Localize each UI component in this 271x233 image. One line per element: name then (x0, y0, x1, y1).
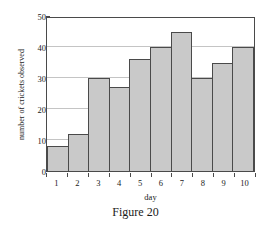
bar (88, 78, 110, 171)
plot-area (46, 17, 255, 172)
x-axis-label: day (46, 192, 255, 202)
bar (191, 78, 213, 171)
x-axis-tick-label: 8 (192, 178, 213, 188)
x-axis-tick-label: 6 (151, 178, 172, 188)
y-axis-tick-label: 0 (30, 168, 46, 177)
x-axis-tick-label: 7 (171, 178, 192, 188)
x-axis-tick-label-group: 12345678910 (46, 178, 255, 188)
x-axis-tick-mark (234, 173, 235, 177)
bar (212, 63, 234, 172)
bar (171, 32, 193, 172)
x-axis-tick-label: 4 (109, 178, 130, 188)
x-axis-tick-mark (192, 173, 193, 177)
x-axis-tick-label: 5 (130, 178, 151, 188)
y-axis-label: number of crickets observed (17, 20, 26, 170)
x-axis-tick-label: 1 (46, 178, 67, 188)
x-axis-tick-mark (130, 173, 131, 177)
y-axis-tick-label: 40 (30, 44, 46, 53)
x-axis-tick-mark (109, 173, 110, 177)
bar (109, 87, 131, 171)
bar (150, 47, 172, 171)
figure-container: number of crickets observed 01020304050 … (0, 0, 271, 233)
x-axis-tick-mark (46, 173, 47, 177)
x-axis-tick-mark (213, 173, 214, 177)
x-axis-tick-mark (255, 173, 256, 177)
y-axis-tick-label: 10 (30, 137, 46, 146)
bar (129, 59, 151, 171)
x-axis-tick-mark (171, 173, 172, 177)
bar (232, 47, 254, 171)
y-axis-tick-label: 50 (30, 13, 46, 22)
x-axis-tick-mark (151, 173, 152, 177)
y-axis-tick-label: 20 (30, 106, 46, 115)
x-axis-tick-mark (67, 173, 68, 177)
x-axis-tick-mark (88, 173, 89, 177)
y-axis-tick-label: 30 (30, 75, 46, 84)
bar (68, 134, 90, 171)
figure-caption: Figure 20 (0, 205, 271, 220)
x-axis-tick-label: 10 (234, 178, 255, 188)
x-axis-tick-label: 9 (213, 178, 234, 188)
x-axis-tick-label: 2 (67, 178, 88, 188)
bar-series (47, 18, 254, 171)
bar (47, 146, 69, 171)
x-axis-tick-label: 3 (88, 178, 109, 188)
y-axis-tick-group: 01020304050 (26, 17, 46, 172)
